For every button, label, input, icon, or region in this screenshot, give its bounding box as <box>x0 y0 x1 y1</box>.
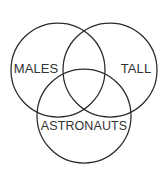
venn-label-males: MALES <box>14 61 59 76</box>
venn-diagram-figure: MALES TALL ASTRONAUTS <box>0 0 168 178</box>
venn-diagram-canvas: MALES TALL ASTRONAUTS <box>0 0 168 178</box>
venn-label-tall: TALL <box>121 61 152 76</box>
venn-label-astronauts: ASTRONAUTS <box>41 119 127 133</box>
